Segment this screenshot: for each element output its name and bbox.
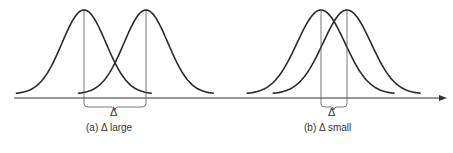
- caption-a: (a) Δ large: [86, 122, 132, 133]
- mean-markers: [84, 10, 347, 110]
- gaussian-curves: [16, 10, 421, 93]
- delta-label-b: Δ: [328, 106, 335, 118]
- caption-b: (b) Δ small: [304, 122, 351, 133]
- distribution-diagram: [0, 0, 453, 153]
- delta-label-a: Δ: [110, 106, 117, 118]
- x-axis: [14, 95, 447, 101]
